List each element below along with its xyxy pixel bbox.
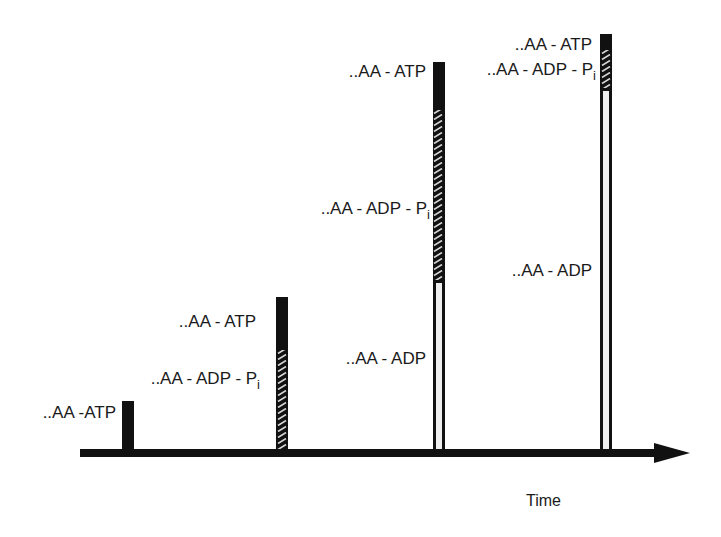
time-axis: [80, 443, 690, 463]
segment-adp-interior: [436, 283, 442, 453]
segment-atp: [600, 34, 612, 50]
state-label-subscript: i: [427, 207, 430, 222]
state-label: ..AA - ADP - Pi: [151, 370, 260, 387]
arrow-right-icon: [654, 443, 690, 463]
segment-adp-pi: [433, 110, 445, 280]
state-label-text: ..AA - ADP - P: [487, 60, 593, 79]
state-label: ..AA - ADP - Pi: [487, 61, 596, 78]
bars-layer: [122, 34, 612, 453]
event-bar-2: [276, 297, 288, 453]
state-label: ..AA -ATP: [43, 404, 116, 421]
time-axis-label: Time: [526, 492, 561, 510]
state-label: ..AA - ADP - Pi: [321, 200, 430, 217]
segment-atp: [122, 401, 134, 453]
axis-line: [80, 449, 656, 457]
state-label: ..AA - ATP: [179, 313, 256, 330]
state-label-text: ..AA - ATP: [349, 62, 426, 81]
segment-atp: [433, 62, 445, 110]
segment-adp-pi: [276, 350, 288, 453]
state-label-text: ..AA - ATP: [515, 35, 592, 54]
state-label: ..AA - ATP: [349, 63, 426, 80]
segment-adp-pi: [600, 50, 612, 88]
state-label-text: ..AA - ATP: [179, 312, 256, 331]
state-label: ..AA - ADP: [512, 262, 592, 279]
state-label: ..AA - ATP: [515, 36, 592, 53]
state-label-text: ..AA - ADP: [512, 261, 592, 280]
state-label-text: ..AA - ADP - P: [321, 199, 427, 218]
state-label-text: ..AA - ADP - P: [151, 369, 257, 388]
segment-atp: [276, 297, 288, 350]
segment-adp-interior: [603, 91, 609, 453]
state-label-subscript: i: [593, 68, 596, 83]
state-label: ..AA - ADP: [346, 350, 426, 367]
state-label-text: ..AA - ADP: [346, 349, 426, 368]
state-label-text: ..AA -ATP: [43, 403, 116, 422]
event-bar-3: [433, 62, 445, 453]
state-label-subscript: i: [257, 377, 260, 392]
event-bar-1: [122, 401, 134, 453]
event-bar-4: [600, 34, 612, 453]
